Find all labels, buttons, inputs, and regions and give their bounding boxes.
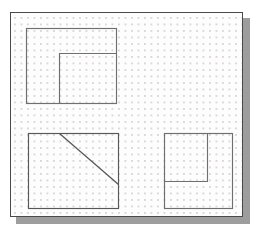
drawing-layer[interactable] bbox=[11, 13, 243, 217]
shape-top-left[interactable] bbox=[27, 29, 117, 104]
shape-bottom-right-inner-rect[interactable] bbox=[165, 134, 208, 182]
shape-bottom-left-diagonal-line[interactable] bbox=[60, 134, 119, 185]
screenshot-stage bbox=[0, 0, 264, 239]
shape-bottom-right-outer-rect[interactable] bbox=[165, 134, 233, 209]
shape-top-left-inner-rect[interactable] bbox=[60, 54, 117, 104]
drafting-canvas[interactable] bbox=[10, 12, 243, 217]
shape-bottom-left[interactable] bbox=[29, 134, 119, 209]
shape-bottom-right[interactable] bbox=[165, 134, 233, 209]
shape-top-left-outer-rect[interactable] bbox=[27, 29, 117, 104]
